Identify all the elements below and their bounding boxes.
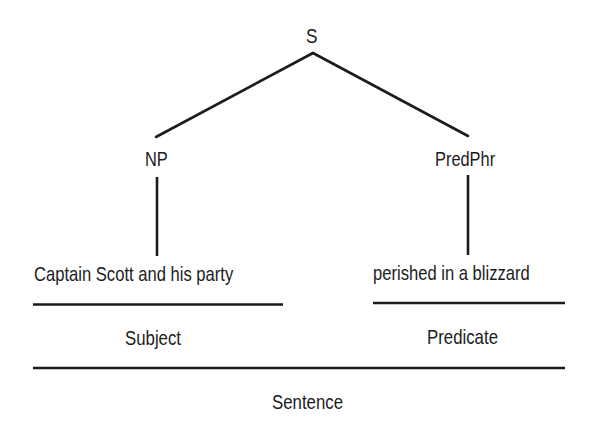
function-label-sentence: Sentence	[272, 390, 343, 414]
node-label-np: NP	[145, 147, 168, 171]
edge-s-to-predphr	[313, 53, 468, 136]
function-label-subject: Subject	[125, 326, 181, 350]
node-label-predphr: PredPhr	[435, 147, 495, 171]
node-label-s: S	[306, 24, 317, 48]
leaf-subject-phrase: Captain Scott and his party	[34, 262, 233, 286]
syntax-tree-diagram: S NP PredPhr Captain Scott and his party…	[0, 0, 596, 431]
tree-edges	[0, 0, 596, 431]
leaf-predicate-phrase: perished in a blizzard	[373, 261, 530, 285]
edge-s-to-np	[156, 53, 313, 137]
function-label-predicate: Predicate	[427, 325, 498, 349]
